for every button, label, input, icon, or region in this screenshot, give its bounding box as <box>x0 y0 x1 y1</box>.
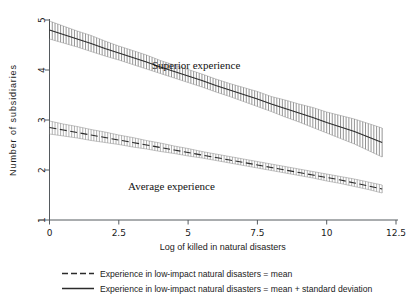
annotation-superior-experience: Superior experience <box>152 59 240 71</box>
y-tick-label: 5 <box>37 17 47 23</box>
y-tick-label: 4 <box>37 67 47 73</box>
y-tick-label: 3 <box>37 117 47 123</box>
y-tick-label: 1 <box>37 217 47 223</box>
x-tick-label: 5 <box>185 228 191 238</box>
x-tick-label: 7.5 <box>250 228 264 238</box>
x-tick-label: 10 <box>321 228 333 238</box>
legend-label: Experience in low-impact natural disaste… <box>100 284 373 294</box>
chart-figure: 1234502.557.51012.5Superior experienceAv… <box>0 0 420 308</box>
x-axis-title: Log of killed in natural disasters <box>160 242 287 252</box>
y-axis-title: Number of subsidiaries <box>8 64 18 176</box>
x-tick-label: 2.5 <box>112 228 126 238</box>
legend-item[interactable]: Experience in low-impact natural disaste… <box>62 284 373 294</box>
legend-label: Experience in low-impact natural disaste… <box>100 269 292 279</box>
annotation-average-experience: Average experience <box>128 180 215 192</box>
plot-area: 1234502.557.51012.5Superior experienceAv… <box>0 0 420 308</box>
x-tick-label: 0 <box>47 228 53 238</box>
chart-canvas: 1234502.557.51012.5Superior experienceAv… <box>0 0 420 308</box>
legend-item[interactable]: Experience in low-impact natural disaste… <box>62 269 292 279</box>
y-tick-label: 2 <box>37 167 47 173</box>
x-tick-label: 12.5 <box>386 228 406 238</box>
